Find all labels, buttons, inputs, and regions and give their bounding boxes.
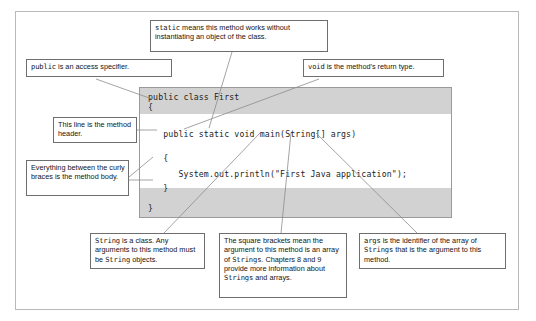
code-line-main-header: public static void main(String[] args) <box>148 130 356 139</box>
keyword-void: void <box>308 62 325 71</box>
callout-void-text: is the method's return type. <box>325 62 415 71</box>
code-line-class-close-brace: } <box>148 204 153 213</box>
keyword-string-1: String <box>95 236 120 245</box>
keyword-strings-1: Strings <box>232 255 261 264</box>
code-shade-band-bottom <box>140 188 451 218</box>
code-line-println: System.out.println("First Java applicati… <box>148 170 407 179</box>
callout-void: void is the method's return type. <box>303 59 444 77</box>
callout-string-class: String is a class. Any arguments to this… <box>90 233 205 269</box>
code-line-class-decl: public class First <box>148 93 239 102</box>
callout-args-identifier: args is the identifier of the array of S… <box>359 233 506 269</box>
callout-method-header: This line is the method header. <box>53 117 137 143</box>
keyword-public: public <box>31 62 56 71</box>
keyword-string-2: String <box>105 255 130 264</box>
figure-page: public class First { public static void … <box>0 0 536 321</box>
keyword-strings-2: Strings <box>224 273 253 282</box>
callout-method-header-text: This line is the method header. <box>58 120 131 138</box>
code-line-class-open-brace: { <box>148 103 153 112</box>
code-line-method-open-brace: { <box>148 154 168 163</box>
callout-method-body-text: Everything between the curly braces is t… <box>31 163 125 181</box>
callout-square-brackets: The square brackets mean the argument to… <box>219 233 347 298</box>
callout-method-body: Everything between the curly braces is t… <box>26 160 129 196</box>
callout-public-text: is an access specifier. <box>56 62 129 71</box>
keyword-args: args <box>364 236 381 245</box>
keyword-strings-3: Strings <box>364 245 393 254</box>
callout-brackets-text-3: and arrays. <box>253 273 292 282</box>
code-listing: public class First { public static void … <box>139 87 452 218</box>
callout-public: public is an access specifier. <box>26 59 172 77</box>
keyword-static: static <box>155 23 180 32</box>
callout-string-text-2: objects. <box>130 255 157 264</box>
code-line-method-close-brace: } <box>148 184 168 193</box>
callout-static: static means this method works without i… <box>150 20 328 52</box>
callout-args-text-1: is the identifier of the array of <box>381 236 477 245</box>
